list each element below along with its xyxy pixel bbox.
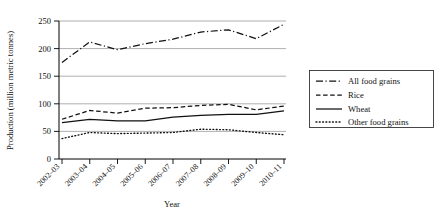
y-tick-label-100: 100 <box>38 99 51 109</box>
line-chart: Production (million metric tonnes) 250 2… <box>0 0 437 223</box>
y-axis-title: Production (million metric tonnes) <box>5 31 15 150</box>
x-tick-label-4: 2006–07 <box>146 162 172 188</box>
legend: All food grains Rice Wheat Other food gr… <box>310 71 434 128</box>
x-tick-label-6: 2008–09 <box>202 162 228 188</box>
y-tick-label-50: 50 <box>43 126 52 136</box>
legend-label-other-food-grains: Other food grains <box>348 117 409 127</box>
x-tick-label-7: 2009–10 <box>230 162 256 188</box>
x-axis-title: Year <box>164 199 180 209</box>
series-wheat <box>62 111 284 123</box>
x-tick-label-3: 2005–06 <box>119 162 145 188</box>
x-tick-label-1: 2003–04 <box>63 162 89 188</box>
legend-label-wheat: Wheat <box>348 104 371 114</box>
y-tick-label-200: 200 <box>38 44 51 54</box>
y-tick-marks <box>54 21 59 159</box>
series-group <box>62 24 284 138</box>
x-tick-marks <box>62 159 284 164</box>
series-other-food-grains <box>62 129 284 138</box>
legend-label-rice: Rice <box>348 90 364 100</box>
y-tick-label-250: 250 <box>38 16 51 26</box>
chart-container: Production (million metric tonnes) 250 2… <box>0 0 437 223</box>
x-tick-label-8: 2010–11 <box>257 162 283 188</box>
x-tick-labels: 2002–03 2003–04 2004–05 2005–06 2006–07 … <box>35 162 283 188</box>
series-all-food-grains <box>62 24 284 62</box>
legend-label-all-food-grains: All food grains <box>348 76 401 86</box>
y-tick-label-150: 150 <box>38 71 51 81</box>
x-tick-label-0: 2002–03 <box>35 162 61 188</box>
x-tick-label-5: 2007–08 <box>174 162 200 188</box>
x-tick-label-2: 2004–05 <box>91 162 117 188</box>
y-tick-label-0: 0 <box>47 154 51 164</box>
y-tick-labels: 250 200 150 100 50 0 <box>38 16 51 164</box>
